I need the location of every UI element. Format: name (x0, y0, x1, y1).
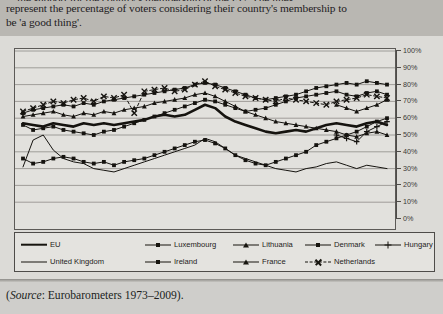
data-point-marker (101, 109, 106, 114)
legend-item-netherlands[interactable]: Netherlands (305, 253, 375, 270)
data-point-marker (72, 130, 76, 134)
data-point-marker (183, 105, 187, 109)
y-axis-tick-label: 40% (396, 147, 417, 156)
y-tick-mark (396, 218, 401, 219)
data-point-marker (385, 83, 389, 87)
source-label: Source (10, 289, 42, 302)
legend-marker-square-icon (316, 243, 320, 247)
data-point-marker (345, 93, 349, 97)
data-point-marker (375, 89, 379, 93)
data-point-marker (314, 86, 318, 90)
y-tick-mark (396, 168, 401, 169)
data-point-marker (304, 150, 308, 154)
y-tick-text: 20% (403, 180, 417, 189)
legend-item-luxembourg[interactable]: Luxembourg (145, 236, 216, 253)
series-eu (23, 105, 387, 134)
data-point-marker (173, 147, 177, 151)
source-band: (Source: Eurobarometers 1973–2009). (0, 279, 443, 314)
legend-item-ireland[interactable]: Ireland (145, 253, 197, 270)
legend-label: Luxembourg (174, 240, 216, 249)
data-point-marker (335, 83, 339, 87)
legend-swatch (233, 257, 259, 267)
series-line (23, 81, 387, 113)
source-rest: : Eurobarometers 1973–2009). (42, 289, 184, 302)
y-tick-mark (396, 201, 401, 202)
data-point-marker (314, 143, 318, 147)
y-tick-text: 70% (403, 96, 417, 105)
legend-label: Ireland (174, 257, 197, 266)
data-point-marker (324, 140, 328, 144)
data-point-marker (153, 153, 157, 157)
y-axis-tick-label: 20% (396, 180, 417, 189)
data-point-marker (324, 102, 329, 107)
data-point-marker (72, 105, 76, 109)
legend-item-lithuania[interactable]: Lithuania (233, 236, 293, 253)
y-axis: 100%90%80%70%60%50%40%30%20%10%0% (396, 44, 443, 234)
data-point-marker (112, 163, 116, 167)
legend-row: EULuxembourgLithuaniaDenmarkHungary (15, 236, 434, 253)
legend-item-united-kingdom[interactable]: United Kingdom (21, 253, 104, 270)
data-point-marker (324, 91, 328, 95)
legend-marker-triangle-icon (243, 259, 249, 264)
intro-line-2: be 'a good thing'. (6, 15, 435, 29)
y-tick-mark (396, 67, 401, 68)
data-point-marker (193, 101, 197, 105)
legend-item-eu[interactable]: EU (21, 236, 61, 253)
y-axis-tick-label: 100% (396, 46, 421, 55)
y-tick-text: 40% (403, 147, 417, 156)
data-point-marker (102, 130, 106, 134)
data-point-marker (41, 160, 45, 164)
data-point-marker (374, 124, 380, 130)
legend-label: EU (50, 240, 61, 249)
data-point-marker (102, 100, 106, 104)
data-point-marker (102, 160, 106, 164)
intro-paragraph: …the support for the country's membershi… (0, 0, 443, 36)
legend-label: Netherlands (334, 257, 375, 266)
data-point-marker (122, 160, 126, 164)
data-point-marker (365, 79, 369, 83)
data-point-marker (193, 140, 197, 144)
data-point-marker (51, 157, 55, 161)
data-point-marker (51, 105, 55, 109)
y-axis-tick-label: 0% (396, 214, 413, 223)
horizontal-rule (0, 279, 443, 282)
data-point-marker (345, 81, 349, 85)
data-point-marker (355, 83, 359, 87)
data-point-marker (82, 101, 86, 105)
y-tick-mark (396, 84, 401, 85)
y-tick-text: 30% (403, 164, 417, 173)
legend-item-france[interactable]: France (233, 253, 286, 270)
legend-swatch (305, 240, 331, 250)
figure-panel: 100%90%80%70%60%50%40%30%20%10%0% 197319… (0, 36, 443, 279)
data-point-marker (374, 129, 379, 134)
data-point-marker (355, 130, 359, 134)
legend-marker-square-icon (156, 243, 160, 247)
data-point-marker (365, 125, 369, 129)
y-tick-text: 100% (403, 46, 421, 55)
series-lithuania (334, 97, 389, 113)
legend-item-hungary[interactable]: Hungary (375, 236, 433, 253)
data-point-marker (132, 94, 136, 98)
data-point-marker (324, 84, 328, 88)
data-point-marker (51, 109, 56, 114)
y-tick-text: 50% (403, 130, 417, 139)
legend-marker-triangle-icon (243, 242, 249, 247)
legend-swatch (21, 257, 47, 267)
line-chart-svg (15, 49, 395, 229)
data-point-marker (132, 110, 137, 115)
legend-label: United Kingdom (50, 257, 104, 266)
chart-plot-area (14, 48, 396, 230)
y-tick-text: 0% (403, 214, 413, 223)
series-ireland (21, 89, 389, 136)
data-point-marker (142, 157, 146, 161)
legend-swatch (145, 257, 171, 267)
y-axis-tick-label: 90% (396, 63, 417, 72)
data-point-marker (294, 93, 298, 97)
y-axis-tick-label: 50% (396, 130, 417, 139)
data-point-marker (304, 94, 308, 98)
data-point-marker (132, 158, 136, 162)
legend-item-denmark[interactable]: Denmark (305, 236, 365, 253)
data-point-marker (153, 115, 157, 119)
y-axis-tick-label: 60% (396, 113, 417, 122)
y-tick-text: 90% (403, 63, 417, 72)
